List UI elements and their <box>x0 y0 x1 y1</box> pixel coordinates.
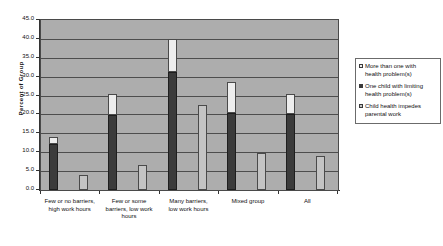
gridline <box>41 58 338 59</box>
stacked-bar <box>286 94 295 190</box>
x-axis-category-label: Few or somebarriers, low workhours <box>98 198 160 221</box>
y-tick-label: 35.0 <box>0 53 34 59</box>
light-swatch-icon <box>359 64 363 68</box>
bar-segment-more-than-one <box>168 39 177 72</box>
bar-segment-more-than-one <box>227 82 236 114</box>
legend-item[interactable]: More than one withhealth problem(s) <box>359 63 437 79</box>
x-axis-category-label: Mixed group <box>217 198 279 206</box>
y-tick-mark <box>36 151 39 152</box>
x-tick-mark <box>278 191 279 194</box>
legend-item-label: One child with limitinghealth problem(s) <box>365 83 423 99</box>
x-tick-mark <box>159 191 160 194</box>
y-tick-label: 45.0 <box>0 15 34 21</box>
legend-item-label: More than one withhealth problem(s) <box>365 63 416 79</box>
y-tick-label: 5.0 <box>0 166 34 172</box>
bar-segment-one-child <box>286 114 295 190</box>
bar-child-health-impedes-work <box>316 156 325 190</box>
x-tick-mark <box>337 191 338 194</box>
bar-segment-one-child <box>168 72 177 190</box>
bar-child-health-impedes-work <box>138 165 147 190</box>
bar-child-health-impedes-work <box>79 175 88 190</box>
stacked-bar <box>49 137 58 190</box>
bar-segment-one-child <box>108 115 117 190</box>
y-tick-mark <box>36 19 39 20</box>
x-tick-mark <box>40 191 41 194</box>
legend-item[interactable]: One child with limitinghealth problem(s) <box>359 83 437 99</box>
bar-child-health-impedes-work <box>257 153 266 190</box>
y-tick-label: 20.0 <box>0 109 34 115</box>
y-tick-label: 15.0 <box>0 128 34 134</box>
plot-area <box>40 19 339 191</box>
x-tick-mark <box>99 191 100 194</box>
y-tick-label: 25.0 <box>0 91 34 97</box>
bar-segment-more-than-one <box>286 94 295 115</box>
y-tick-mark <box>36 113 39 114</box>
y-tick-mark <box>36 132 39 133</box>
dark-swatch-icon <box>359 84 363 88</box>
bar-segment-more-than-one <box>108 94 117 116</box>
stacked-bar <box>108 94 117 190</box>
x-axis-category-label: Many barriers,low work hours <box>158 198 220 213</box>
x-axis-category-label: Few or no barriers,high work hours <box>39 198 101 213</box>
gridline <box>41 39 338 40</box>
stacked-bar <box>168 39 177 190</box>
y-tick-label: 0.0 <box>0 185 34 191</box>
legend-item[interactable]: Child health impedesparental work <box>359 103 437 119</box>
gray-swatch-icon <box>359 104 363 108</box>
bar-child-health-impedes-work <box>198 105 207 190</box>
chart-legend: More than one withhealth problem(s)One c… <box>355 58 441 124</box>
chart-figure: Percent of Group 45.040.035.030.025.020.… <box>0 0 443 246</box>
y-tick-mark <box>36 95 39 96</box>
y-tick-label: 10.0 <box>0 147 34 153</box>
gridline <box>41 77 338 78</box>
bar-segment-more-than-one <box>49 137 58 143</box>
y-tick-mark <box>36 170 39 171</box>
stacked-bar <box>227 82 236 190</box>
y-tick-mark <box>36 76 39 77</box>
y-tick-label: 30.0 <box>0 72 34 78</box>
x-axis-category-label: All <box>276 198 338 206</box>
legend-item-label: Child health impedesparental work <box>365 103 421 119</box>
y-tick-mark <box>36 57 39 58</box>
bar-segment-one-child <box>227 113 236 190</box>
bar-segment-one-child <box>49 144 58 190</box>
y-tick-mark <box>36 189 39 190</box>
y-tick-mark <box>36 38 39 39</box>
x-tick-mark <box>218 191 219 194</box>
y-tick-label: 40.0 <box>0 34 34 40</box>
